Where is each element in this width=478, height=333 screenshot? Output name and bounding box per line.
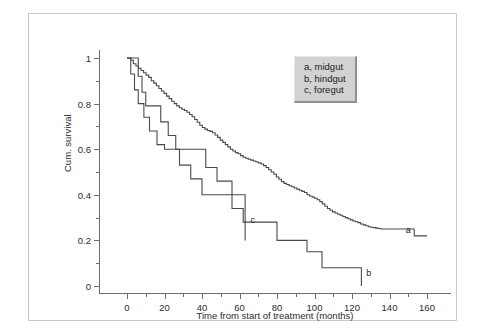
x-tick-80: [277, 294, 278, 299]
x-tick-20: [165, 294, 166, 299]
y-tick-label-0: 0: [86, 281, 91, 292]
x-tick-label-140: 140: [382, 302, 398, 313]
x-tick-label-0: 0: [124, 302, 129, 313]
curve-label-c: c: [250, 215, 255, 225]
curve-a-midgut: [127, 58, 427, 236]
x-tick-minor: [221, 294, 222, 297]
x-tick-label-160: 160: [419, 302, 435, 313]
x-tick-label-80: 80: [272, 302, 283, 313]
curve-label-a: a: [406, 225, 411, 235]
curve-label-b: b: [366, 268, 371, 278]
x-tick-60: [240, 294, 241, 299]
figure-canvas: Cum. survival Time from start of treatme…: [0, 0, 478, 333]
curve-c-foregut: [127, 58, 245, 240]
x-tick-label-100: 100: [307, 302, 323, 313]
x-tick-120: [352, 294, 353, 299]
x-tick-minor: [371, 294, 372, 297]
legend-item-foregut: c, foregut: [304, 84, 346, 96]
y-tick-label-0.8: 0.8: [78, 98, 91, 109]
y-tick-label-0.4: 0.4: [78, 189, 91, 200]
legend-item-midgut: a, midgut: [304, 61, 346, 73]
x-tick-40: [202, 294, 203, 299]
legend-item-hindgut: b, hindgut: [304, 73, 346, 85]
y-axis-title: Cum. survival: [62, 114, 73, 172]
x-tick-label-40: 40: [197, 302, 208, 313]
y-tick-label-0.2: 0.2: [78, 235, 91, 246]
x-tick-label-120: 120: [344, 302, 360, 313]
x-tick-minor: [296, 294, 297, 297]
survival-curves: [99, 50, 451, 294]
x-tick-100: [315, 294, 316, 299]
x-tick-label-60: 60: [234, 302, 245, 313]
legend-box: a, midgut b, hindgut c, foregut: [294, 56, 357, 103]
x-tick-label-20: 20: [159, 302, 170, 313]
figure-frame: Cum. survival Time from start of treatme…: [28, 13, 457, 321]
x-tick-minor: [258, 294, 259, 297]
y-tick-label-0.6: 0.6: [78, 144, 91, 155]
x-tick-minor: [146, 294, 147, 297]
plot-area: 00.20.40.60.81 020406080100120140160 abc: [99, 50, 451, 294]
x-tick-160: [427, 294, 428, 299]
y-tick-label-1: 1: [86, 53, 91, 64]
x-tick-minor: [333, 294, 334, 297]
x-tick-minor: [183, 294, 184, 297]
x-tick-140: [390, 294, 391, 299]
x-tick-0: [127, 294, 128, 299]
x-tick-minor: [408, 294, 409, 297]
